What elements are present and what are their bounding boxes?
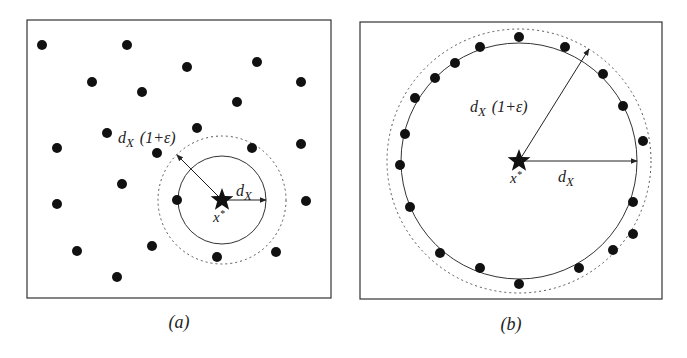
data-point <box>435 248 445 258</box>
panel-b: x*dX(1+ε)dX(b) <box>360 22 662 335</box>
data-point <box>301 196 311 206</box>
data-point <box>574 263 584 273</box>
outer-radius-label: dX(1+ε) <box>470 98 528 119</box>
figure-canvas: x*dX(1+ε)dX(a) x*dX(1+ε)dX(b) <box>0 0 687 358</box>
x-star-label: x* <box>509 169 522 186</box>
data-point <box>560 42 570 52</box>
data-point <box>102 128 112 138</box>
data-point <box>37 40 47 50</box>
data-point <box>400 129 410 139</box>
star-icon <box>508 149 531 171</box>
data-point <box>395 160 405 170</box>
panel-a: x*dX(1+ε)dX(a) <box>27 20 331 333</box>
data-point <box>152 148 162 158</box>
star-icon <box>211 188 234 210</box>
data-point <box>430 73 440 83</box>
outer-radius-arrow <box>519 49 589 161</box>
data-point <box>608 245 618 255</box>
panel-caption: (b) <box>501 314 522 335</box>
data-point <box>52 143 62 153</box>
data-point <box>628 229 638 239</box>
data-point <box>117 179 127 189</box>
data-point <box>475 263 485 273</box>
data-point <box>192 123 202 133</box>
data-point <box>296 77 306 87</box>
data-point <box>172 195 182 205</box>
data-point <box>232 97 242 107</box>
data-point <box>212 252 222 262</box>
data-point <box>514 32 524 42</box>
data-point <box>112 272 122 282</box>
data-point <box>52 199 62 209</box>
data-point <box>296 139 306 149</box>
data-point <box>405 202 415 212</box>
data-point <box>72 246 82 256</box>
data-point <box>514 279 524 289</box>
data-point <box>410 93 420 103</box>
data-point <box>638 136 648 146</box>
data-point <box>122 40 132 50</box>
data-point <box>271 247 281 257</box>
data-point <box>87 77 97 87</box>
inner-radius-label: dX <box>558 168 575 189</box>
data-point <box>628 197 638 207</box>
data-point <box>182 62 192 72</box>
data-point <box>618 101 628 111</box>
data-point <box>147 241 157 251</box>
data-point <box>137 87 147 97</box>
data-point <box>598 69 608 79</box>
x-star-label: x* <box>212 208 225 225</box>
panel-caption: (a) <box>169 312 190 333</box>
panel-frame <box>27 20 331 298</box>
data-point <box>450 58 460 68</box>
data-point <box>247 143 257 153</box>
outer-radius-label: dX(1+ε) <box>118 129 176 150</box>
data-point <box>252 57 262 67</box>
data-point <box>475 42 485 52</box>
outer-radius-arrow <box>177 155 222 200</box>
